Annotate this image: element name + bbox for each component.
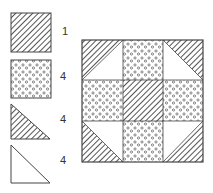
count-plain-triangle: 4 [60,154,66,166]
legend-plain-triangle [11,145,50,183]
count-dotted-square: 4 [60,70,66,82]
quilt-block [82,40,203,162]
legend-hatched-square [11,13,51,52]
quilt-diagram [0,0,213,193]
legend-hatched-triangle [11,104,50,139]
count-hatched-triangle: 4 [60,113,66,125]
count-hatched-square: 1 [62,25,68,37]
legend-dotted-square [11,60,51,98]
